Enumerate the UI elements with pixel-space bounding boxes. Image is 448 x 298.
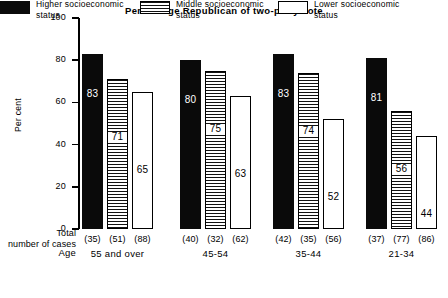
n-label-higher-1: (40) [177,234,204,244]
x-axis-title: Age [28,247,76,258]
n-label-lower-3: (86) [413,234,440,244]
bar-value-middle-3: 56 [392,164,411,174]
n-label-lower-0: (88) [129,234,156,244]
bar-value-higher-2: 83 [274,89,293,99]
bar-lower-1: 63 [230,96,251,229]
bar-value-higher-1: 80 [181,95,200,105]
bar-lower-3: 44 [416,136,437,229]
y-tick-label-80: 80 [40,54,66,64]
bar-value-higher-3: 81 [367,93,386,103]
total-cases-line1: Total [0,228,76,239]
chart-root: Percentage Republican of two-party vote … [0,0,448,298]
bar-value-higher-0: 83 [83,89,102,99]
n-label-middle-0: (51) [104,234,131,244]
bar-higher-0: 83 [82,54,103,229]
n-label-middle-2: (35) [295,234,322,244]
bar-middle-0: 71 [107,79,128,229]
group-label-1: 45-54 [172,248,259,259]
n-label-higher-0: (35) [79,234,106,244]
bar-lower-0: 65 [132,92,153,229]
bar-middle-3: 56 [391,111,412,229]
n-label-middle-1: (32) [202,234,229,244]
bar-higher-1: 80 [180,60,201,229]
bar-value-lower-1: 63 [231,169,250,179]
bar-value-middle-0: 71 [108,132,127,142]
y-tick-label-60: 60 [40,96,66,106]
n-label-lower-1: (62) [227,234,254,244]
n-label-higher-2: (42) [270,234,297,244]
bar-value-lower-2: 52 [324,192,343,202]
group-label-2: 35-44 [265,248,352,259]
bar-value-middle-2: 74 [299,126,318,136]
legend-swatch-higher-icon [0,1,30,14]
group-label-3: 21-34 [358,248,445,259]
legend-label-higher: Higher socioeconomicstatus [36,0,156,20]
bar-higher-2: 83 [273,54,294,229]
y-tick-label-40: 40 [40,139,66,149]
n-label-lower-2: (56) [320,234,347,244]
bar-value-lower-3: 44 [417,209,436,219]
n-label-higher-3: (37) [363,234,390,244]
legend-label-line1: Higher socioeconomic [36,0,156,10]
group-label-0: 55 and over [74,248,161,259]
legend-swatch-lower-icon [278,1,308,14]
legend-label-line1: Lower socioeconomic [314,0,434,10]
bar-lower-2: 52 [323,119,344,229]
y-tick-label-20: 20 [40,181,66,191]
legend-swatch-middle-icon [140,1,170,14]
bar-value-middle-1: 75 [206,124,225,134]
bar-higher-3: 81 [366,58,387,229]
bar-middle-2: 74 [298,73,319,229]
legend-label-lower: Lower socioeconomicstatus [314,0,434,20]
bar-middle-1: 75 [205,71,226,229]
y-axis-title: Per cent [13,85,23,145]
legend-label-line2: status [314,10,434,21]
n-label-middle-3: (77) [388,234,415,244]
legend-label-line2: status [36,10,156,21]
bar-value-lower-0: 65 [133,165,152,175]
